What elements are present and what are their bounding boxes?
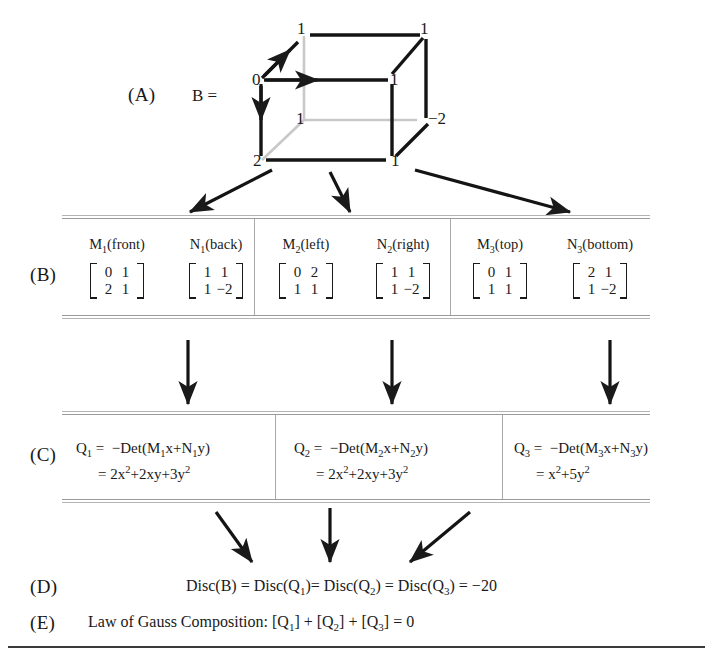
matrix-header-m1: M1(front)	[62, 237, 172, 255]
cube-vertex-bottom-front-left: 2	[253, 152, 262, 169]
cube-vertex-bottom-back-left: 1	[296, 110, 305, 127]
matrix-n1: 11 1−2	[166, 263, 266, 303]
matrix-header-n3: N3(bottom)	[544, 237, 656, 255]
gauss-composition-law: Law of Gauss Composition: [Q1] + [Q2] + …	[88, 613, 414, 633]
cube-vertex-top-back-right: 1	[420, 20, 429, 37]
matrix-m3: 01 11	[452, 263, 548, 303]
cube-diagram	[240, 8, 480, 188]
quadratic-forms-table: Q1 = −Det(M1x+N1y) = 2x2+2xy+3y2 Q2 = −D…	[62, 414, 650, 500]
cube-direction-arrows	[261, 50, 318, 120]
section-label-d: (D)	[30, 576, 57, 598]
matrix-n2: 11 1−2	[354, 263, 452, 303]
matrices-table: M1(front) N1(back) M2(left) N2(right) M3…	[62, 218, 650, 316]
cube-vertex-top-front-left: 0	[252, 71, 261, 88]
discriminant-equation: Disc(B) = Disc(Q1)= Disc(Q2) = Disc(Q3) …	[186, 577, 497, 597]
cube-vertex-bottom-front-right: 1	[391, 152, 400, 169]
matrix-m1: 01 21	[62, 263, 172, 303]
bottom-rule	[8, 646, 705, 648]
matrix-header-n2: N2(right)	[354, 237, 452, 255]
matrix-n3: 21 1−2	[544, 263, 656, 303]
cube-vertex-top-front-right: 1	[390, 71, 399, 88]
section-label-b: (B)	[30, 264, 56, 286]
quadratic-form-q1: Q1 = −Det(M1x+N1y) = 2x2+2xy+3y2	[76, 437, 210, 487]
matrix-header-m2: M2(left)	[258, 237, 354, 255]
quadratic-form-q2: Q2 = −Det(M2x+N2y) = 2x2+2xy+3y2	[294, 437, 428, 487]
section-label-e: (E)	[30, 612, 55, 634]
matrix-header-m3: M3(top)	[452, 237, 548, 255]
matrix-m2: 02 11	[258, 263, 354, 303]
cube-vertex-bottom-back-right: −2	[428, 110, 446, 127]
quadratic-form-q3: Q3 = −Det(M3x+N3y) = x2+5y2	[514, 437, 648, 487]
cube-equation-label: B =	[192, 86, 217, 106]
matrix-header-n1: N1(back)	[166, 237, 266, 255]
table-c-divider-2	[502, 415, 503, 499]
cube-vertex-top-back-left: 1	[297, 20, 306, 37]
figure-page: (A) B =	[0, 0, 713, 660]
section-label-a: (A)	[128, 84, 155, 106]
section-label-c: (C)	[30, 444, 56, 466]
table-c-divider-1	[275, 415, 276, 499]
